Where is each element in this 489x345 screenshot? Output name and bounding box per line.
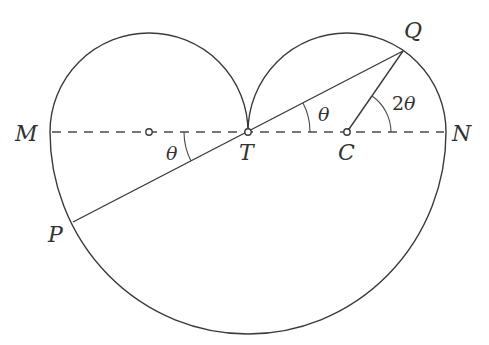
angle-arc-two-theta [372,96,391,132]
label-two-theta: 2θ [392,92,416,114]
label-C: C [338,140,355,165]
right-lobe-arc [248,33,446,132]
left-center-marker [146,129,152,135]
label-N: N [451,121,472,146]
label-T: T [239,140,256,165]
angle-arc-theta-lower [184,132,191,161]
label-M: M [14,121,38,146]
label-two-theta-num: 2 [392,92,404,114]
point-C-marker [344,129,350,135]
chord-PQ [73,51,403,222]
point-T-marker [245,129,251,135]
limacon-diagram: M N T C P Q θ θ 2θ [0,0,489,345]
label-two-theta-sym: θ [404,92,416,114]
label-P: P [47,222,64,247]
label-Q: Q [404,18,422,43]
left-lobe-arc [50,33,248,132]
label-theta-upper: θ [318,103,330,125]
label-theta-lower: θ [166,142,178,164]
angle-arc-theta-upper [303,103,310,132]
